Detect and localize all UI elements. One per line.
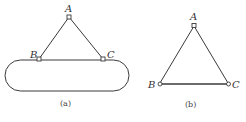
label-A: A	[189, 11, 197, 22]
hinge-B	[158, 82, 162, 86]
bar-AC	[194, 26, 228, 83]
diagram-canvas: A B C (a) A B C (b)	[0, 0, 246, 122]
label-A: A	[64, 3, 72, 14]
bar-AB	[160, 26, 194, 83]
hinge-C	[227, 82, 231, 86]
figure-b: A B C (b)	[147, 11, 240, 109]
hinge-B	[37, 57, 41, 61]
hinge-A	[192, 24, 196, 28]
figure-a: A B C (a)	[5, 3, 129, 108]
label-B: B	[29, 49, 37, 60]
label-C: C	[107, 49, 115, 60]
caption-b: (b)	[185, 100, 196, 109]
hinge-A	[67, 15, 71, 19]
hinge-C	[101, 57, 105, 61]
caption-a: (a)	[60, 99, 71, 108]
label-C: C	[232, 79, 240, 90]
bar-AC	[69, 17, 103, 59]
bar-AB	[39, 17, 69, 59]
rigid-body	[5, 60, 129, 91]
label-B: B	[147, 79, 155, 90]
